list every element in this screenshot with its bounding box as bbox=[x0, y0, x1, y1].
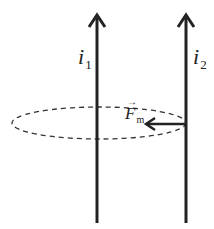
wire-2 bbox=[178, 15, 194, 223]
diagram-canvas: i1 i2 Fm → bbox=[0, 0, 214, 229]
wire-1 bbox=[89, 15, 105, 223]
force-vector bbox=[146, 118, 186, 130]
vector-arrow-icon: → bbox=[127, 96, 137, 107]
label-i2: i2 bbox=[193, 44, 207, 72]
label-force: Fm bbox=[124, 104, 144, 125]
label-i1: i1 bbox=[78, 44, 92, 72]
